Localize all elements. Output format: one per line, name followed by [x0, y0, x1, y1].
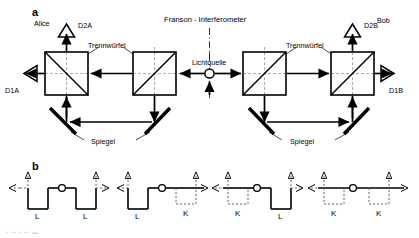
mirror-label-left: Spiegel — [91, 137, 115, 146]
detector-d1b-label: D1B — [389, 86, 403, 95]
path-label-2-right: K — [183, 209, 188, 218]
path-label-3-right: L — [278, 212, 282, 221]
light-source — [205, 69, 214, 78]
path-diagram-4 — [308, 172, 408, 204]
detector-d2b-label: D2B — [364, 21, 378, 30]
beamsplitter-label-left: Trennwürfel — [88, 41, 126, 50]
detector-d2a-label: D2A — [78, 21, 92, 30]
beamsplitter-alice-outer — [40, 47, 93, 100]
beamsplitter-bob-outer — [326, 47, 379, 100]
mirror-bob-right — [344, 108, 369, 134]
franson-interferometer-figure — [0, 0, 419, 238]
mirror-alice-right — [145, 108, 170, 134]
path-diagram-1 — [9, 172, 109, 209]
path-diagram-2 — [117, 172, 208, 209]
path-label-1-right: L — [83, 212, 87, 221]
leader-mirror-right-a — [269, 132, 282, 140]
beamsplitter-label-right: Trennwürfel — [286, 41, 324, 50]
mirror-alice-left — [50, 108, 76, 134]
panel-a-diagram — [24, 24, 394, 140]
path-label-3-left: K — [235, 209, 240, 218]
path-diagram-3 — [212, 172, 303, 209]
figure-title: Franson - Interferometer — [164, 15, 246, 24]
path-label-4-left: K — [331, 209, 336, 218]
leader-mirror-left-b — [136, 132, 150, 140]
leader-mirror-right-b — [335, 132, 349, 140]
detector-d1a-label: D1A — [5, 86, 19, 95]
panel-b-diagram — [9, 172, 408, 209]
panel-letter-b: b — [32, 160, 39, 172]
leader-mirror-left-a — [71, 132, 84, 140]
mirror-bob-left — [249, 108, 274, 134]
path-label-2-left: L — [135, 212, 139, 221]
path-label-1-left: L — [35, 212, 39, 221]
beamsplitter-alice-inner — [128, 47, 181, 100]
beamsplitter-bob-inner — [238, 47, 291, 100]
path-label-4-right: K — [376, 209, 381, 218]
observer-alice-label: Alice — [34, 19, 50, 28]
mirror-label-right: Spiegel — [290, 137, 314, 146]
light-source-label: Lichtquelle — [192, 58, 226, 67]
panel-letter-a: a — [32, 6, 38, 18]
observer-bob-label: Bob — [377, 16, 390, 25]
clipped-caption-fragment: ▪ ▪▪ ▪ ▪▪ ▬ — [6, 229, 84, 234]
